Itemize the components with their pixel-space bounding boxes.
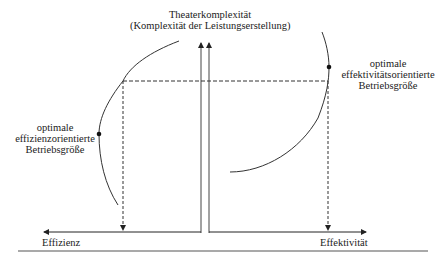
effectiveness-axis-label: Effektivität [320, 237, 368, 248]
efficiency-optimum-label-line1: optimale [10, 122, 100, 133]
effectiveness-optimum-point [327, 65, 332, 70]
efficiency-curve [99, 41, 179, 205]
vertical-axis-title-line1: Theaterkomplexität [130, 9, 290, 20]
effectiveness-optimum-label: optimale effektivitätsorientierte Betrie… [332, 58, 444, 91]
efficiency-axis-label: Effizienz [42, 237, 80, 248]
effectiveness-optimum-label-line3: Betriebsgröße [332, 80, 444, 91]
effectiveness-optimum-label-line2: effektivitätsorientierte [332, 69, 444, 80]
vertical-axis-title: Theaterkomplexität (Komplexität der Leis… [130, 9, 290, 31]
vertical-axis-title-line2: (Komplexität der Leistungserstellung) [130, 20, 290, 31]
efficiency-optimum-label-line3: Betriebsgröße [10, 144, 100, 155]
effectiveness-curve [230, 32, 329, 172]
effectiveness-optimum-label-line1: optimale [332, 58, 444, 69]
efficiency-optimum-label-line2: effizienzorientierte [10, 133, 100, 144]
efficiency-optimum-label: optimale effizienzorientierte Betriebsgr… [10, 122, 100, 155]
